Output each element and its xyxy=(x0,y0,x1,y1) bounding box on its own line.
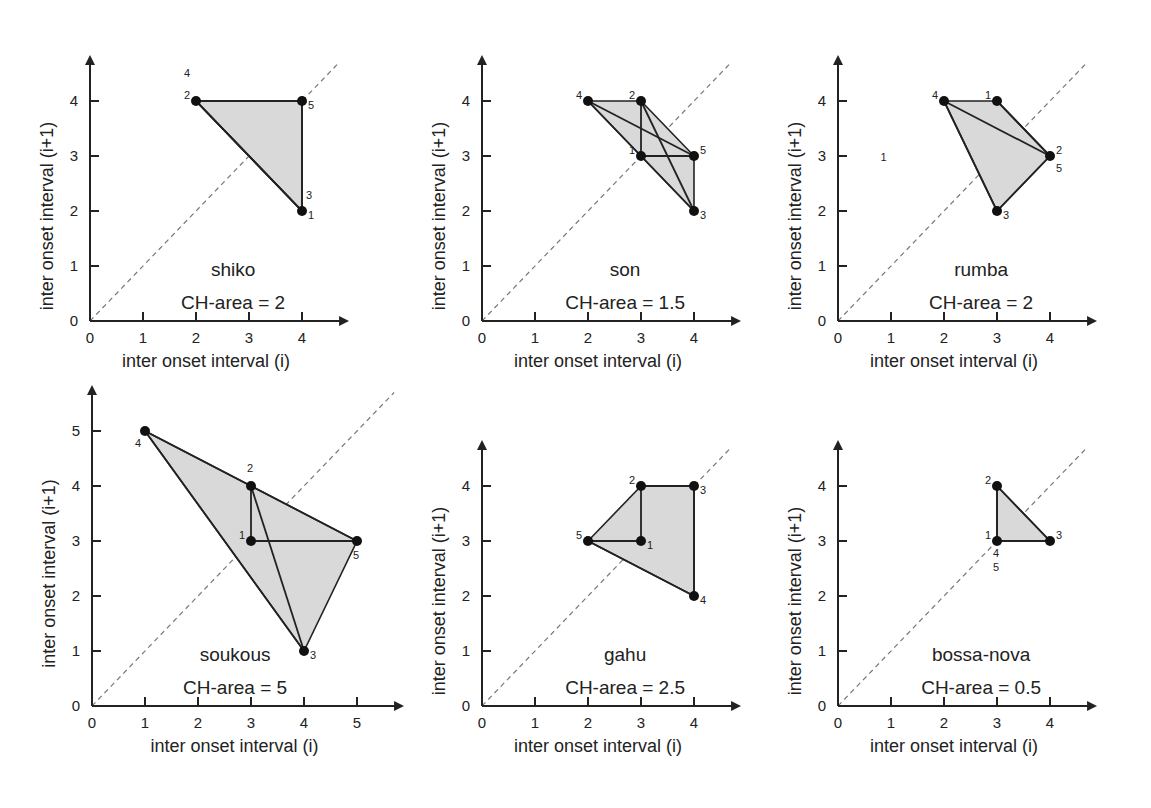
y-tick-label: 2 xyxy=(70,202,78,219)
y-tick-label: 0 xyxy=(462,312,470,329)
point-label: 3 xyxy=(1003,209,1009,221)
point-label: 3 xyxy=(1056,529,1062,541)
y-axis-label: inter onset interval (i+1) xyxy=(429,122,449,311)
x-tick-label: 1 xyxy=(887,329,895,346)
y-tick-label: 0 xyxy=(818,312,826,329)
x-tick-label: 2 xyxy=(940,714,948,731)
y-tick-label: 3 xyxy=(818,147,826,164)
x-tick-label: 2 xyxy=(192,329,200,346)
ch-area-label: CH-area = 2.5 xyxy=(565,677,685,698)
panel-shiko: 0123401234inter onset interval (i)inter … xyxy=(37,57,347,371)
rhythm-name: soukous xyxy=(200,644,271,665)
x-tick-label: 4 xyxy=(298,329,306,346)
onset-point xyxy=(636,96,646,106)
point-label: 4 xyxy=(576,89,582,101)
x-tick-label: 3 xyxy=(637,714,645,731)
y-tick-label: 2 xyxy=(818,202,826,219)
onset-point xyxy=(297,206,307,216)
x-tick-label: 4 xyxy=(690,714,698,731)
onset-point xyxy=(299,646,309,656)
x-tick-label: 2 xyxy=(584,714,592,731)
stray-point-label: 1 xyxy=(880,151,886,163)
x-tick-label: 3 xyxy=(637,329,645,346)
point-label: 2 xyxy=(184,89,190,101)
x-axis-label: inter onset interval (i) xyxy=(870,351,1038,371)
onset-point xyxy=(636,151,646,161)
y-tick-label: 0 xyxy=(462,697,470,714)
x-tick-label: 3 xyxy=(247,714,255,731)
y-tick-label: 4 xyxy=(818,92,826,109)
y-tick-label: 1 xyxy=(70,257,78,274)
point-label: 4 xyxy=(135,437,141,449)
onset-point xyxy=(992,96,1002,106)
x-tick-label: 0 xyxy=(478,714,486,731)
y-tick-label: 4 xyxy=(462,477,470,494)
panel-gahu: 0123401234inter onset interval (i)inter … xyxy=(429,442,739,756)
x-tick-label: 4 xyxy=(300,714,308,731)
point-label: 3 xyxy=(700,209,706,221)
rhythm-name: son xyxy=(610,259,641,280)
y-tick-label: 2 xyxy=(462,587,470,604)
point-label: 2 xyxy=(629,89,635,101)
y-tick-label: 3 xyxy=(72,532,80,549)
onset-point xyxy=(583,96,593,106)
x-tick-label: 0 xyxy=(834,714,842,731)
y-tick-label: 5 xyxy=(72,422,80,439)
rhythm-name: shiko xyxy=(211,259,255,280)
x-tick-label: 5 xyxy=(353,714,361,731)
point-label: 1 xyxy=(985,529,991,541)
onset-point xyxy=(636,481,646,491)
onset-point xyxy=(992,206,1002,216)
x-axis-label: inter onset interval (i) xyxy=(514,351,682,371)
onset-point xyxy=(636,536,646,546)
onset-point xyxy=(246,536,256,546)
point-label: 1 xyxy=(985,89,991,101)
point-label: 2 xyxy=(629,474,635,486)
y-tick-label: 1 xyxy=(462,642,470,659)
point-label: 5 xyxy=(993,561,999,573)
point-label: 3 xyxy=(700,484,706,496)
y-tick-label: 3 xyxy=(818,532,826,549)
y-tick-label: 4 xyxy=(462,92,470,109)
point-label: 1 xyxy=(308,209,314,221)
onset-point xyxy=(1045,536,1055,546)
x-tick-label: 1 xyxy=(531,714,539,731)
panel-son: 0123401234inter onset interval (i)inter … xyxy=(429,57,739,371)
x-tick-label: 3 xyxy=(993,714,1001,731)
x-axis-label: inter onset interval (i) xyxy=(122,351,290,371)
onset-point xyxy=(689,481,699,491)
onset-point xyxy=(352,536,362,546)
x-axis-label: inter onset interval (i) xyxy=(150,736,318,756)
point-label: 2 xyxy=(247,462,253,474)
y-tick-label: 1 xyxy=(818,642,826,659)
x-tick-label: 4 xyxy=(1046,714,1054,731)
ch-area-label: CH-area = 5 xyxy=(183,677,287,698)
x-tick-label: 4 xyxy=(690,329,698,346)
point-label: 1 xyxy=(647,539,653,551)
x-tick-label: 2 xyxy=(584,329,592,346)
point-label: 1 xyxy=(629,144,635,156)
y-tick-label: 4 xyxy=(818,477,826,494)
y-axis-label: inter onset interval (i+1) xyxy=(785,122,805,311)
point-label: 4 xyxy=(700,594,706,606)
y-tick-label: 0 xyxy=(818,697,826,714)
y-axis-label: inter onset interval (i+1) xyxy=(37,122,57,311)
onset-point xyxy=(689,151,699,161)
x-axis-label: inter onset interval (i) xyxy=(870,736,1038,756)
onset-point xyxy=(1045,151,1055,161)
onset-point xyxy=(992,481,1002,491)
x-tick-label: 0 xyxy=(478,329,486,346)
y-axis-label: inter onset interval (i+1) xyxy=(39,479,59,668)
onset-point xyxy=(191,96,201,106)
rhythm-name: bossa-nova xyxy=(932,644,1031,665)
y-tick-label: 2 xyxy=(462,202,470,219)
x-tick-label: 2 xyxy=(194,714,202,731)
panel-bossa: 0123401234inter onset interval (i)inter … xyxy=(785,442,1095,756)
rhythm-name: gahu xyxy=(604,644,646,665)
x-tick-label: 1 xyxy=(887,714,895,731)
x-tick-label: 3 xyxy=(993,329,1001,346)
diagonal-line xyxy=(838,448,1087,707)
x-tick-label: 0 xyxy=(86,329,94,346)
rhythm-name: rumba xyxy=(954,259,1008,280)
point-label: 2 xyxy=(1056,144,1062,156)
